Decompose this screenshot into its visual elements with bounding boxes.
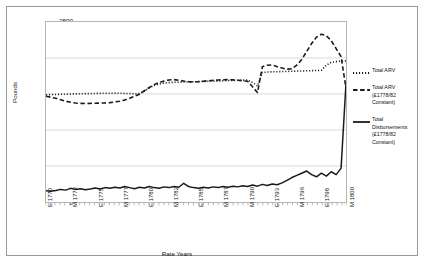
legend-item: Total ARV(£1778/82 Constant) [353,84,417,107]
x-axis-ticks [45,203,347,207]
legend-label-line2: (£1778/82 Constant) [372,131,417,146]
legend-item: Total Disbursements(£1778/82 Constant) [353,116,417,147]
x-axis-title: Rate Years [7,250,347,257]
data-lines [46,22,346,202]
legend-key-dotted-line-icon [353,67,370,75]
plot-area [45,21,347,203]
legend-label: Total ARV(£1778/82 Constant) [372,84,417,107]
chart-frame: Pounds 05001000150020002500 E 1770M 1772… [6,6,418,256]
y-axis-title: Pounds [11,82,18,103]
legend-item: Total ARV [353,67,417,75]
legend-label-line2: (£1778/82 Constant) [372,92,417,107]
x-tick-label: M 1800 [349,187,355,207]
legend-key-dashed-line-icon [353,84,370,92]
legend-label-line1: Total Disbursements [372,116,417,131]
legend-label-line1: Total ARV [372,67,395,75]
legend-label-line1: Total ARV [372,84,417,92]
legend-label: Total ARV [372,67,395,75]
legend-label: Total Disbursements(£1778/82 Constant) [372,116,417,147]
legend-key-solid-line-icon [353,116,370,124]
chart-legend: Total ARV Total ARV(£1778/82 Constant) T… [353,67,417,156]
